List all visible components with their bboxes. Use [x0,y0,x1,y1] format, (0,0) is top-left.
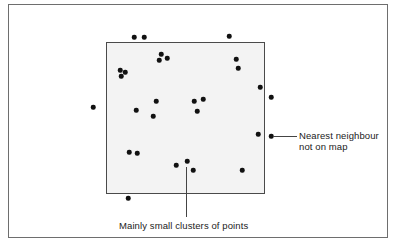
point [132,35,137,40]
nearest-neighbour-leader [273,136,297,137]
point [240,168,245,173]
point [154,99,159,104]
point [119,74,124,79]
point [227,34,232,39]
point [174,163,179,168]
point [269,95,274,100]
clusters-label: Mainly small clusters of points [119,220,248,231]
point [258,85,263,90]
point [151,114,156,119]
point [165,56,170,61]
point [142,35,147,40]
point [192,99,197,104]
point [201,97,206,102]
point [123,70,128,75]
nearest-neighbour-label: Nearest neighbour not on map [299,130,379,152]
point [256,132,261,137]
point [191,168,196,173]
point [126,196,131,201]
point [195,109,200,114]
clusters-leader [186,167,187,217]
point [159,52,164,57]
point [157,58,162,63]
point [134,108,139,113]
nearest-neighbour-line2: not on map [299,141,379,152]
point [118,68,123,73]
point [91,105,96,110]
point [127,150,132,155]
point [236,66,241,71]
nearest-neighbour-line1: Nearest neighbour [299,130,379,141]
point [135,151,140,156]
point [185,159,190,164]
point [234,57,239,62]
